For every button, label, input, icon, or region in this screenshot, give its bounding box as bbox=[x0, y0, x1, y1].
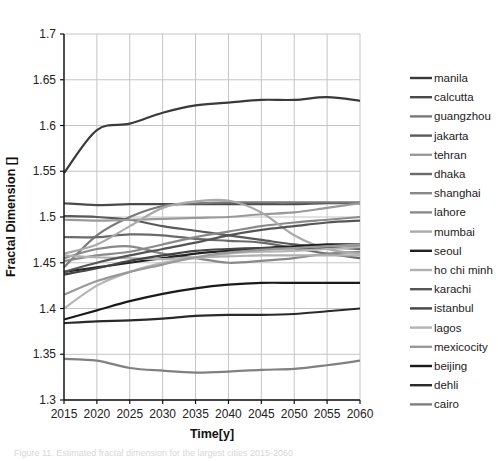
y-axis-ticks: 1.31.351.41.451.51.551.61.651.7 bbox=[33, 27, 64, 407]
svg-text:shanghai: shanghai bbox=[434, 187, 481, 199]
legend-item-guangzhou: guangzhou bbox=[410, 110, 491, 122]
x-tick-label: 2050 bbox=[281, 407, 308, 421]
legend-item-tehran: tehran bbox=[410, 149, 467, 161]
legend-item-manila: manila bbox=[410, 72, 468, 84]
svg-text:dehli: dehli bbox=[434, 379, 458, 391]
x-tick-label: 2060 bbox=[347, 407, 374, 421]
y-tick-label: 1.65 bbox=[33, 73, 57, 87]
fractal-dimension-chart: 1.31.351.41.451.51.551.61.651.7 20152020… bbox=[0, 0, 498, 461]
legend-item-dehli: dehli bbox=[410, 379, 458, 391]
x-tick-label: 2040 bbox=[215, 407, 242, 421]
x-tick-label: 2055 bbox=[314, 407, 341, 421]
x-tick-label: 2025 bbox=[116, 407, 143, 421]
svg-text:tehran: tehran bbox=[434, 149, 467, 161]
legend-item-ho-chi-minh: ho chi minh bbox=[410, 264, 493, 276]
svg-text:beijing: beijing bbox=[434, 360, 467, 372]
legend-item-seoul: seoul bbox=[410, 245, 462, 257]
legend-item-cairo: cairo bbox=[410, 398, 459, 410]
x-axis-ticks: 2015202020252030203520402045205020552060 bbox=[51, 400, 374, 421]
legend-item-shanghai: shanghai bbox=[410, 187, 481, 199]
svg-text:calcutta: calcutta bbox=[434, 91, 474, 103]
legend-item-lagos: lagos bbox=[410, 322, 462, 334]
x-tick-label: 2045 bbox=[248, 407, 275, 421]
x-tick-label: 2030 bbox=[149, 407, 176, 421]
svg-text:seoul: seoul bbox=[434, 245, 462, 257]
svg-text:jakarta: jakarta bbox=[433, 130, 469, 142]
y-tick-label: 1.45 bbox=[33, 256, 57, 270]
x-axis-title: Time[y] bbox=[190, 427, 234, 441]
legend: manilacalcuttaguangzhoujakartatehrandhak… bbox=[410, 72, 493, 410]
y-tick-label: 1.6 bbox=[39, 119, 56, 133]
legend-item-istanbul: istanbul bbox=[410, 302, 474, 314]
y-axis-title: Fractal Dimension [] bbox=[4, 157, 18, 277]
legend-item-calcutta: calcutta bbox=[410, 91, 474, 103]
y-tick-label: 1.5 bbox=[39, 210, 56, 224]
series-line-beijing bbox=[64, 283, 360, 320]
y-tick-label: 1.4 bbox=[39, 302, 56, 316]
series-line-cairo bbox=[64, 359, 360, 373]
svg-text:cairo: cairo bbox=[434, 398, 459, 410]
y-tick-label: 1.3 bbox=[39, 393, 56, 407]
svg-text:guangzhou: guangzhou bbox=[434, 110, 491, 122]
legend-item-dhaka: dhaka bbox=[410, 168, 466, 180]
svg-text:mumbai: mumbai bbox=[434, 226, 475, 238]
series-lines bbox=[64, 97, 360, 372]
series-line-dehli bbox=[64, 309, 360, 324]
svg-text:lahore: lahore bbox=[434, 206, 466, 218]
legend-item-mexicocity: mexicocity bbox=[410, 341, 488, 353]
svg-text:dhaka: dhaka bbox=[434, 168, 466, 180]
y-tick-label: 1.55 bbox=[33, 164, 57, 178]
series-line-manila bbox=[64, 97, 360, 173]
legend-item-mumbai: mumbai bbox=[410, 226, 475, 238]
y-tick-label: 1.35 bbox=[33, 347, 57, 361]
x-tick-label: 2015 bbox=[51, 407, 78, 421]
svg-text:istanbul: istanbul bbox=[434, 302, 474, 314]
svg-text:lagos: lagos bbox=[434, 322, 462, 334]
figure-caption: Figure 11. Estimated fractal dimension f… bbox=[14, 448, 484, 458]
x-tick-label: 2020 bbox=[84, 407, 111, 421]
svg-text:mexicocity: mexicocity bbox=[434, 341, 488, 353]
svg-text:manila: manila bbox=[434, 72, 468, 84]
svg-text:karachi: karachi bbox=[434, 283, 471, 295]
svg-text:ho chi minh: ho chi minh bbox=[434, 264, 493, 276]
legend-item-karachi: karachi bbox=[410, 283, 471, 295]
legend-item-jakarta: jakarta bbox=[410, 130, 469, 142]
x-tick-label: 2035 bbox=[182, 407, 209, 421]
legend-item-lahore: lahore bbox=[410, 206, 466, 218]
y-tick-label: 1.7 bbox=[39, 27, 56, 41]
legend-item-beijing: beijing bbox=[410, 360, 467, 372]
